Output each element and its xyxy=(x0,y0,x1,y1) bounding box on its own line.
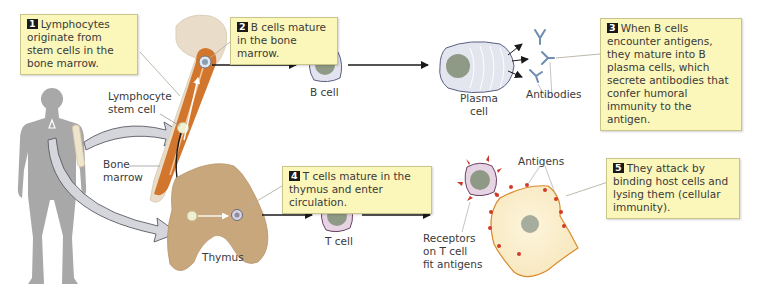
step-number-badge: 3 xyxy=(607,23,618,33)
callout-text: B cells mature in the bone marrow. xyxy=(237,21,326,59)
label-plasma-cell: Plasma cell xyxy=(460,92,498,118)
plasma-cell-icon xyxy=(440,42,514,93)
callout-step-3: 3When B cells encounter antigens, they m… xyxy=(600,18,742,131)
step-number-badge: 4 xyxy=(289,171,300,181)
callout-text: T cells mature in the thymus and enter c… xyxy=(289,170,411,208)
label-bone-marrow: Bone marrow xyxy=(103,158,143,184)
t-cell-bound-icon xyxy=(457,155,502,201)
label-b-cell: B cell xyxy=(310,86,339,99)
label-antigens: Antigens xyxy=(518,155,564,168)
callout-step-1: 1Lymphocytes originate from stem cells i… xyxy=(20,14,138,75)
label-lymphocyte-stem-cell: Lymphocyte stem cell xyxy=(108,90,172,116)
label-t-cell: T cell xyxy=(325,235,353,248)
callout-step-4: 4T cells mature in the thymus and enter … xyxy=(282,166,432,214)
callout-step-5: 5They attack by binding host cells and l… xyxy=(606,158,740,219)
step-number-badge: 1 xyxy=(27,19,38,29)
step-number-badge: 2 xyxy=(237,22,248,32)
label-antibodies: Antibodies xyxy=(526,88,581,101)
label-receptors: Receptors on T cell fit antigens xyxy=(423,232,482,271)
callout-text: They attack by binding host cells and ly… xyxy=(613,162,728,213)
label-thymus: Thymus xyxy=(202,251,244,264)
step-number-badge: 5 xyxy=(613,163,624,173)
callout-step-2: 2B cells mature in the bone marrow. xyxy=(230,17,338,65)
callout-text: Lymphocytes originate from stem cells in… xyxy=(27,18,114,69)
callout-text: When B cells encounter antigens, they ma… xyxy=(607,22,729,125)
